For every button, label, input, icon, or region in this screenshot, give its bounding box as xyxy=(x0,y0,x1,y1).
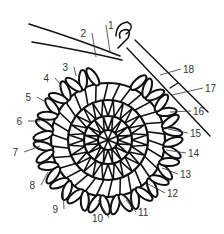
stitch-mark xyxy=(52,146,69,148)
stitch-label: 1 xyxy=(108,20,114,31)
stitch-label: 15 xyxy=(190,128,202,139)
stitch-mark xyxy=(85,178,95,191)
stitch-mark xyxy=(103,149,108,163)
stitch-mark xyxy=(145,122,162,123)
stitch-mark xyxy=(108,100,114,116)
leader-line xyxy=(55,78,60,84)
stitch-mark xyxy=(117,140,131,145)
stitch-mark xyxy=(84,135,98,140)
stitch-mark xyxy=(68,140,84,146)
stitch-mark xyxy=(135,170,141,185)
stitch-mark xyxy=(120,89,130,102)
outer-stitch xyxy=(159,158,179,166)
stitch-mark xyxy=(128,175,131,191)
stitch-mark xyxy=(66,103,75,117)
stitch-label: 8 xyxy=(29,180,35,191)
crochet-hook-icon xyxy=(116,22,210,136)
stitch-label: 17 xyxy=(205,83,217,94)
stitch-label: 9 xyxy=(52,204,58,215)
stitch-mark xyxy=(55,123,69,132)
stitch-mark xyxy=(117,135,131,140)
stitch-mark xyxy=(52,134,68,140)
stitch-mark xyxy=(55,156,72,157)
crochet-diagram: 123456789101112131415161718 xyxy=(0,0,224,234)
stitch-mark xyxy=(108,163,114,179)
stitch-label: 2 xyxy=(80,28,86,39)
stitch-mark xyxy=(97,180,104,195)
stitch-label: 7 xyxy=(12,147,18,158)
stitch-mark xyxy=(104,84,108,100)
stitch-mark xyxy=(112,85,119,100)
stitch-mark xyxy=(102,100,108,116)
stitch-mark xyxy=(147,132,164,134)
stitch-label: 5 xyxy=(25,92,31,103)
stitch-mark xyxy=(140,112,156,117)
stitch-label: 3 xyxy=(62,62,68,73)
stitch-mark xyxy=(103,116,108,130)
stitch-mark xyxy=(59,112,71,124)
stitch-label: 16 xyxy=(193,106,205,117)
stitch-mark xyxy=(102,163,108,179)
stitch-mark xyxy=(108,149,113,163)
stitch-mark xyxy=(108,116,113,130)
stitch-mark xyxy=(60,164,76,169)
stitch-mark xyxy=(128,95,141,106)
stitch-label: 6 xyxy=(16,116,22,127)
leader-line xyxy=(37,97,44,101)
stitch-mark xyxy=(75,95,81,110)
stitch-label: 10 xyxy=(92,213,104,224)
stitch-label: 11 xyxy=(138,207,149,218)
stitch-mark xyxy=(140,164,149,178)
stitch-mark xyxy=(108,180,112,196)
stitch-mark xyxy=(131,140,147,146)
leader-line xyxy=(74,67,76,76)
stitch-label: 13 xyxy=(180,169,192,180)
stitch-mark xyxy=(131,134,147,140)
stitch-mark xyxy=(148,140,164,146)
stitch-label: 18 xyxy=(183,64,195,75)
stitch-mark xyxy=(67,170,82,178)
stitch-label: 12 xyxy=(167,188,179,199)
stitch-mark xyxy=(135,102,150,110)
stitch-mark xyxy=(145,156,157,168)
stitch-mark xyxy=(85,89,88,105)
stitch-mark xyxy=(84,140,98,145)
stitch-label: 4 xyxy=(43,73,49,84)
stitch-mark xyxy=(75,175,88,186)
stitch-mark xyxy=(147,148,161,157)
stitch-label: 14 xyxy=(188,148,200,159)
stitch-mark xyxy=(68,134,84,140)
leader-line xyxy=(172,88,203,95)
